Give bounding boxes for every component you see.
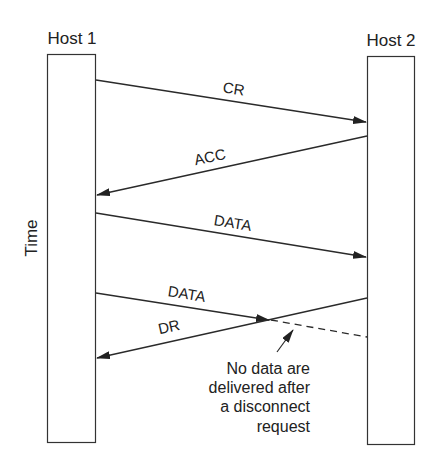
message-label-cr: CR — [222, 79, 246, 99]
annotation-line-4: request — [257, 418, 311, 435]
time-axis-label: Time — [22, 219, 41, 256]
host1-label: Host 1 — [47, 29, 96, 48]
message-label-data-2: DATA — [167, 282, 207, 305]
annotation-pointer-arrow-icon — [277, 330, 293, 352]
message-label-data-1: DATA — [213, 211, 253, 234]
message-dr: DR — [97, 298, 367, 358]
message-acc: ACC — [97, 136, 367, 195]
arrow-left-icon — [97, 136, 367, 195]
arrow-left-icon — [97, 298, 367, 358]
host2-label: Host 2 — [366, 31, 415, 50]
message-cr: CR — [96, 79, 366, 122]
annotation-line-3: a disconnect — [220, 398, 310, 415]
annotation-line-1: No data are — [226, 360, 310, 377]
annotation-line-2: delivered after — [209, 379, 311, 396]
message-data-1: DATA — [96, 211, 366, 257]
annotation-note: No data are delivered after a disconnect… — [209, 360, 311, 435]
host1-lifeline — [48, 55, 96, 443]
message-label-dr: DR — [156, 316, 181, 337]
lost-data-dashed-line — [271, 320, 367, 337]
message-label-acc: ACC — [193, 145, 228, 168]
sequence-diagram: Host 1 Host 2 Time CR ACC DATA DATA DR N… — [0, 0, 442, 465]
host2-lifeline — [368, 57, 415, 445]
message-data-2: DATA — [96, 282, 367, 337]
